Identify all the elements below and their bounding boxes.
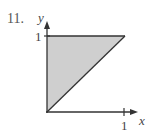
x-tick-label: 1 <box>121 118 128 133</box>
y-axis-arrow-icon <box>44 21 50 29</box>
region-diagram: y 1 1 x <box>0 0 156 135</box>
y-axis-label: y <box>36 10 44 25</box>
x-axis-label: x <box>138 113 145 128</box>
y-tick-label: 1 <box>35 29 42 44</box>
x-axis-arrow-icon <box>130 109 138 115</box>
